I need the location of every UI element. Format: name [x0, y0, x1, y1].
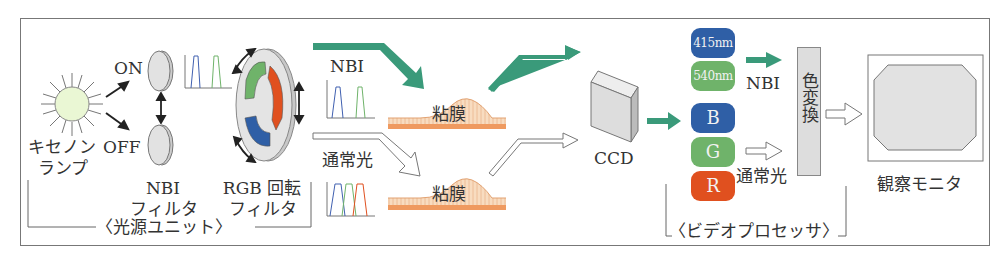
nbi-filter-label-1: NBI: [138, 178, 188, 198]
color-conversion-label: 色変換: [798, 72, 820, 123]
switch-off-label: OFF: [103, 137, 141, 157]
ccd-to-processor-arrow: [647, 112, 681, 130]
normal-output-label: 通常光: [736, 166, 787, 186]
chip-b: B: [691, 103, 735, 133]
nbi-filter-on-icon: [148, 51, 173, 91]
lamp-label-1: キセノン: [28, 137, 96, 157]
video-processor-label: 〈ビデオプロセッサ〉: [669, 221, 839, 241]
to-monitor-arrow: [826, 103, 862, 125]
nbi-filter-off-icon: [148, 125, 173, 165]
xenon-lamp-icon: [41, 73, 103, 136]
switch-on-label: ON: [114, 58, 143, 78]
ccd-icon: [591, 71, 638, 142]
chip-540nm: 540nm: [691, 61, 735, 91]
light-source-unit-label: 〈光源ユニット〉: [96, 217, 232, 237]
nbi-output-label: NBI: [746, 73, 780, 93]
nbi-filter-label-2: フィルタ: [130, 199, 196, 219]
observation-monitor-icon: [868, 55, 983, 161]
lamp-label-2: ランプ: [38, 158, 88, 178]
normal-path-label: 通常光: [322, 150, 373, 170]
nbi-spectrum-2-icon: [327, 80, 375, 118]
chip-415nm: 415nm: [691, 28, 735, 58]
chip-r: R: [691, 171, 735, 201]
nbi-path-label: NBI: [330, 56, 364, 76]
rgb-rotating-filter-icon: [236, 49, 296, 161]
nbi-output-arrow: [746, 52, 782, 68]
ccd-label: CCD: [594, 148, 634, 168]
rgb-filter-label-2: フィルタ: [228, 199, 298, 219]
monitor-label: 観察モニタ: [877, 174, 962, 194]
double-arrow-icon: [157, 93, 165, 123]
normal-output-arrow: [746, 142, 782, 160]
chip-g: G: [691, 137, 735, 167]
normal-spectrum-icon: [327, 182, 375, 216]
mucosa-bottom-label: 粘膜: [432, 184, 466, 204]
nbi-spectrum-icon: [185, 55, 232, 88]
rgb-filter-label-1: RGB 回転: [214, 178, 310, 198]
mucosa-top-label: 粘膜: [432, 104, 466, 124]
